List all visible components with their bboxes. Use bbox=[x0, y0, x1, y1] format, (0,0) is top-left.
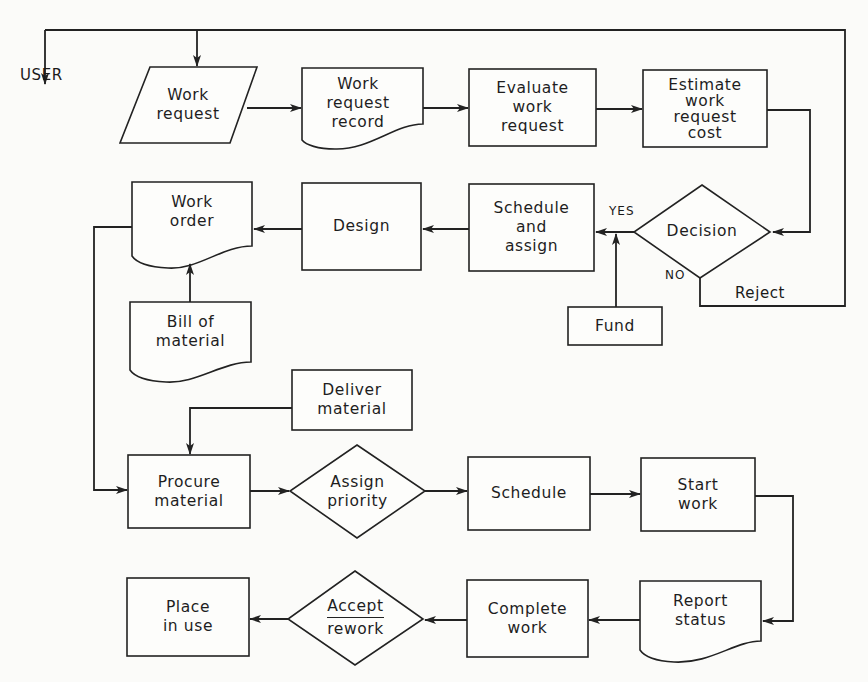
node-text: material bbox=[317, 400, 387, 419]
node-text: Assign bbox=[330, 473, 384, 492]
decision-node: Decision bbox=[634, 185, 770, 278]
fund-node: Fund bbox=[568, 307, 662, 345]
node-text: request bbox=[673, 109, 736, 125]
node-text: Evaluate bbox=[496, 79, 569, 98]
node-text: Design bbox=[333, 217, 390, 236]
node-text: order bbox=[170, 212, 214, 231]
node-text: work bbox=[678, 495, 718, 514]
node-text: priority bbox=[327, 492, 388, 511]
reject-label: Reject bbox=[735, 284, 785, 302]
bill-of-material-node: Bill of material bbox=[130, 306, 251, 358]
work-order-node: Work order bbox=[132, 186, 252, 238]
complete-work-node: Complete work bbox=[467, 580, 588, 657]
node-text: Work bbox=[337, 75, 379, 94]
place-in-use-node: Place in use bbox=[127, 578, 249, 656]
node-text: Decision bbox=[667, 222, 738, 241]
node-text: Estimate bbox=[668, 77, 741, 93]
node-text: record bbox=[331, 113, 384, 132]
node-text: Report bbox=[673, 592, 728, 611]
node-text: Complete bbox=[488, 600, 568, 619]
node-text: Schedule bbox=[491, 484, 567, 503]
evaluate-work-request-node: Evaluate work request bbox=[469, 69, 596, 146]
node-text: work bbox=[685, 93, 725, 109]
node-text: request bbox=[326, 94, 389, 113]
node-text: and bbox=[516, 218, 547, 237]
node-text: Fund bbox=[595, 317, 635, 336]
node-text: Accept bbox=[327, 597, 383, 618]
node-text: Start bbox=[678, 476, 719, 495]
no-label: NO bbox=[665, 268, 685, 282]
node-text: status bbox=[675, 611, 726, 630]
node-text: Place bbox=[166, 598, 210, 617]
node-text: cost bbox=[688, 125, 723, 141]
node-text: request bbox=[156, 105, 219, 124]
node-text: assign bbox=[505, 237, 558, 256]
node-text: in use bbox=[163, 617, 213, 636]
node-text: material bbox=[154, 492, 224, 511]
node-text: work bbox=[508, 619, 548, 638]
node-text: Procure bbox=[158, 473, 221, 492]
node-text: material bbox=[156, 332, 226, 351]
schedule-and-assign-node: Schedule and assign bbox=[469, 184, 594, 271]
estimate-cost-node: Estimate work request cost bbox=[643, 70, 767, 147]
node-text: rework bbox=[327, 620, 384, 639]
work-request-node: Work request bbox=[130, 77, 246, 133]
user-label: USER bbox=[20, 66, 63, 84]
assign-priority-node: Assign priority bbox=[290, 445, 425, 538]
node-text: work bbox=[513, 98, 553, 117]
node-text: Schedule bbox=[493, 199, 569, 218]
node-text: Work bbox=[171, 193, 213, 212]
schedule-node: Schedule bbox=[468, 457, 590, 530]
node-text: request bbox=[501, 117, 564, 136]
node-text: Work bbox=[167, 86, 209, 105]
design-node: Design bbox=[302, 183, 421, 270]
start-work-node: Start work bbox=[641, 458, 755, 531]
node-text: Bill of bbox=[167, 313, 215, 332]
deliver-material-node: Deliver material bbox=[292, 370, 412, 430]
work-request-record-node: Work request record bbox=[302, 72, 414, 134]
accept-rework-node: Accept rework bbox=[288, 571, 423, 665]
yes-label: YES bbox=[609, 204, 635, 218]
report-status-node: Report status bbox=[640, 585, 761, 637]
procure-material-node: Procure material bbox=[128, 455, 250, 528]
node-text: Deliver bbox=[322, 381, 381, 400]
